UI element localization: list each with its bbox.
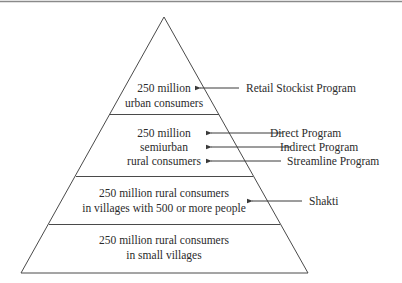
tier-1-line-2: urban consumers [125,97,204,109]
tier-2-line-3: rural consumers [127,155,201,167]
tier-3-line-1: 250 million rural consumers [99,187,230,199]
label-direct-program: Direct Program [270,127,341,140]
tier-4-line-2: in small villages [126,249,202,262]
label-indirect-program: Indirect Program [280,141,358,154]
label-retail-stockist-program: Retail Stockist Program [246,82,356,95]
pyramid-diagram: 250 million urban consumers 250 million … [0,0,402,283]
label-streamline-program: Streamline Program [287,155,379,168]
tier-semiurban: 250 million semiurban rural consumers [127,127,201,167]
tier-4-line-1: 250 million rural consumers [99,234,230,246]
tier-2-line-1: 250 million [137,127,191,139]
tier-2-line-2: semiurban [140,141,188,153]
tier-urban: 250 million urban consumers [125,82,204,109]
tier-1-line-1: 250 million [137,82,191,94]
tier-small-villages: 250 million rural consumers in small vil… [99,234,230,262]
tier-large-villages: 250 million rural consumers in villages … [82,187,246,215]
label-shakti: Shakti [309,195,338,207]
tier-3-line-2: in villages with 500 or more people [82,202,246,215]
